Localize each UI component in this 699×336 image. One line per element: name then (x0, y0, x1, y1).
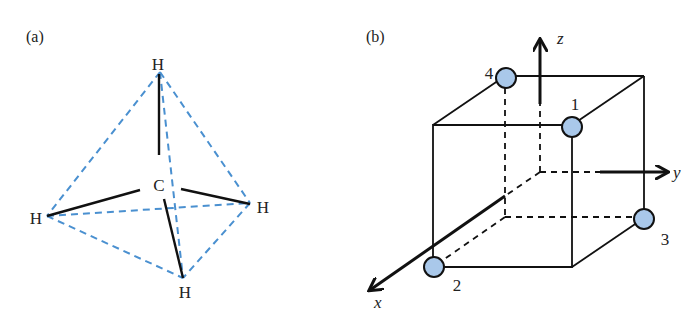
panel-b: (b) z y x (366, 28, 681, 312)
hydrogen-left: H (30, 209, 42, 228)
axes (370, 40, 667, 290)
tetrahedron-edges (47, 72, 250, 278)
hydrogen-top: H (152, 55, 164, 74)
site-2-atom (424, 257, 444, 277)
hydrogen-right: H (257, 198, 269, 217)
panel-a: (a) C H H H H (26, 28, 269, 302)
site-1-label: 1 (571, 95, 580, 114)
site-4-atom (496, 68, 516, 88)
site-2-label: 2 (453, 276, 462, 295)
y-axis-label: y (671, 163, 681, 182)
site-3-atom (634, 209, 654, 229)
site-1-atom (562, 117, 582, 137)
panel-a-label: (a) (26, 28, 44, 46)
carbon-atom: C (153, 176, 164, 195)
site-4-label: 4 (485, 64, 494, 83)
x-axis-label: x (373, 293, 382, 312)
site-3-label: 3 (661, 230, 670, 249)
figure: (a) C H H H H (b) (0, 0, 699, 336)
z-axis-label: z (556, 29, 564, 48)
panel-b-label: (b) (366, 28, 385, 46)
hydrogen-bottom: H (179, 283, 191, 302)
